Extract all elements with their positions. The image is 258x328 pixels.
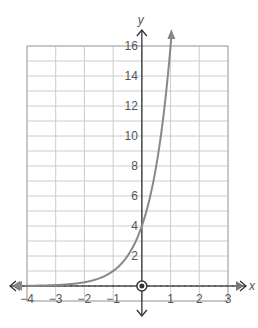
y-tick-label: 2: [131, 249, 138, 263]
x-tick-label: −1: [106, 292, 120, 306]
x-tick-label: −3: [49, 292, 63, 306]
curve-group: [14, 29, 175, 291]
grid-border: [27, 46, 228, 301]
y-tick-label: 4: [131, 219, 138, 233]
y-tick-label: 8: [131, 159, 138, 173]
y-tick-label: 6: [131, 189, 138, 203]
y-tick-label: 14: [124, 69, 138, 83]
y-tick-label: 10: [124, 129, 138, 143]
tick-labels: −4−3−2−1123246810121416: [20, 39, 232, 306]
x-tick-label: 1: [167, 292, 174, 306]
x-tick-label: 3: [225, 292, 232, 306]
x-axis-label: x: [248, 279, 256, 293]
grid: [27, 46, 228, 301]
origin-point-dot: [139, 284, 144, 289]
x-tick-label: 2: [196, 292, 203, 306]
y-axis-label: y: [137, 13, 145, 27]
y-tick-label: 16: [124, 39, 138, 53]
x-tick-label: −2: [78, 292, 92, 306]
curve-line: [27, 37, 171, 286]
x-tick-label: −4: [20, 292, 34, 306]
exponential-graph: −4−3−2−1123246810121416 x y: [0, 0, 258, 328]
y-tick-label: 12: [124, 99, 138, 113]
curve-arrow-up: [167, 29, 175, 39]
